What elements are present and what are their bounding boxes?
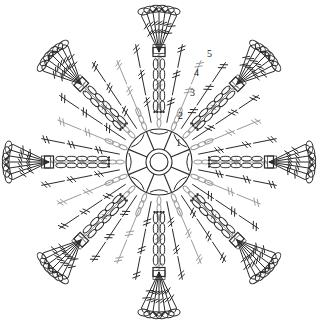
fan-ray-crossbar — [30, 149, 31, 157]
stem-slip-dot — [126, 122, 128, 124]
fan-ray-crossbar — [287, 167, 288, 175]
stem-slip-dot — [195, 195, 197, 197]
stem-slip-dot — [208, 157, 210, 159]
stem-slip-dot — [190, 122, 192, 124]
fan-ray-crossbar — [146, 290, 154, 291]
stem-slip-dot — [108, 159, 110, 161]
stem-slip-dot — [124, 124, 126, 126]
stem-slip-dot — [192, 198, 194, 200]
crochet-motif-diagram: 12345 — [0, 0, 317, 320]
stem-slip-dot — [119, 193, 121, 195]
stem-slip-dot — [108, 157, 110, 159]
stem-slip-dot — [124, 198, 126, 200]
stem-slip-dot — [163, 211, 165, 213]
stem-slip-dot — [192, 124, 194, 126]
stem-slip-dot — [108, 166, 110, 168]
stem-slip-dot — [190, 200, 192, 202]
stem-slip-dot — [160, 211, 162, 213]
stem-slip-dot — [156, 211, 158, 213]
stem-slip-dot — [197, 129, 199, 131]
stem-slip-dot — [208, 163, 210, 165]
round-label-3: 3 — [190, 87, 195, 98]
round-label-4: 4 — [194, 67, 199, 78]
crochet-chart-canvas: 12345 — [0, 0, 317, 320]
stem-slip-dot — [154, 111, 156, 113]
stem-slip-dot — [126, 200, 128, 202]
stem-slip-dot — [208, 166, 210, 168]
stem-slip-dot — [121, 195, 123, 197]
stem-slip-dot — [197, 193, 199, 195]
stem-slip-dot — [208, 159, 210, 161]
stem-slip-dot — [119, 129, 121, 131]
fan-ray-crossbar — [295, 171, 296, 179]
stem-slip-dot — [154, 211, 156, 213]
stem-slip-dot — [163, 111, 165, 113]
stem-slip-dot — [108, 163, 110, 165]
fan-ray-crossbar — [168, 26, 176, 27]
stem-slip-dot — [195, 127, 197, 129]
stem-slip-dot — [160, 111, 162, 113]
fan-ray-crossbar — [23, 145, 24, 153]
fan-ray-crossbar — [164, 33, 172, 34]
stem-slip-dot — [156, 111, 158, 113]
round-label-2: 2 — [178, 110, 183, 121]
round-label-1: 1 — [176, 137, 181, 148]
stem-slip-dot — [121, 127, 123, 129]
round-label-5: 5 — [207, 48, 212, 59]
fan-ray-crossbar — [142, 298, 150, 299]
